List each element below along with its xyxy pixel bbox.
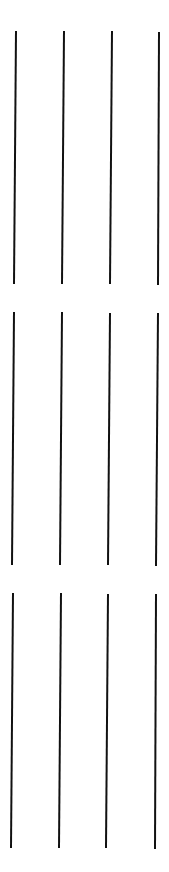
- group-2: [12, 312, 158, 566]
- line-groups: [11, 31, 159, 849]
- vertical-line: [106, 594, 108, 848]
- vertical-line: [156, 313, 158, 566]
- group-3: [11, 593, 156, 849]
- vertical-line: [158, 32, 159, 285]
- group-1: [14, 31, 159, 285]
- vertical-line: [60, 312, 62, 565]
- vertical-line: [108, 313, 110, 565]
- line-canvas: [0, 0, 169, 872]
- vertical-line: [12, 312, 14, 565]
- vertical-line: [62, 31, 64, 284]
- vertical-line: [59, 593, 61, 848]
- vertical-line: [155, 594, 156, 849]
- vertical-line: [110, 31, 112, 284]
- vertical-line: [14, 31, 16, 284]
- vertical-line: [11, 593, 13, 848]
